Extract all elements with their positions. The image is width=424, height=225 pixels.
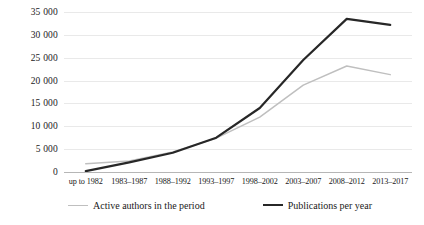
y-axis-tick-label: 0 <box>0 167 58 177</box>
series-line-publications <box>86 19 391 171</box>
y-axis-tick-label: 15 000 <box>0 98 58 108</box>
legend-item-label: Active authors in the period <box>93 200 205 211</box>
x-axis-tick-labels: up to 1982 1983–1987 1988–1992 1993–1997… <box>64 176 412 190</box>
y-axis-tick-label: 10 000 <box>0 121 58 131</box>
y-axis-tick-label: 30 000 <box>0 30 58 40</box>
series-line-active-authors <box>86 66 391 164</box>
legend-item-active-authors: Active authors in the period <box>68 200 205 211</box>
plot-area <box>64 12 412 172</box>
y-axis-tick-label: 35 000 <box>0 7 58 17</box>
x-axis-tick-label: 1988–1992 <box>151 176 195 190</box>
series-layer <box>64 12 412 172</box>
line-chart: 35 000 30 000 25 000 20 000 15 000 10 00… <box>0 0 424 225</box>
y-axis-tick-label: 25 000 <box>0 53 58 63</box>
x-axis-tick-label: 1998–2002 <box>238 176 282 190</box>
y-axis-tick-labels: 35 000 30 000 25 000 20 000 15 000 10 00… <box>0 0 58 225</box>
chart-legend: Active authors in the period Publication… <box>64 196 412 214</box>
x-axis-tick-label: 2003–2007 <box>282 176 326 190</box>
x-axis-line <box>64 172 412 173</box>
x-axis-tick-label: 1993–1997 <box>195 176 239 190</box>
y-axis-tick-label: 20 000 <box>0 76 58 86</box>
x-axis-tick-label: up to 1982 <box>64 176 108 190</box>
legend-line-swatch-icon <box>263 204 283 206</box>
y-axis-tick-label: 5 000 <box>0 144 58 154</box>
x-axis-tick-label: 2008–2012 <box>325 176 369 190</box>
x-axis-tick-label: 1983–1987 <box>108 176 152 190</box>
legend-item-label: Publications per year <box>288 200 372 211</box>
legend-line-swatch-icon <box>68 205 88 206</box>
legend-item-publications: Publications per year <box>263 200 372 211</box>
x-axis-tick-label: 2013–2017 <box>369 176 413 190</box>
